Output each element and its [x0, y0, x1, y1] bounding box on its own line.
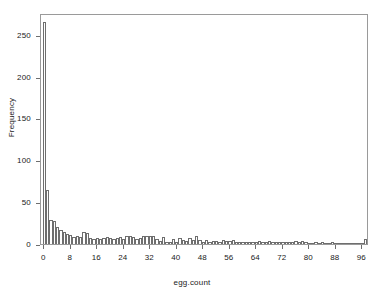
y-tick-label: 50	[5, 199, 31, 207]
histogram-bars	[41, 15, 367, 244]
x-tick-label: 32	[135, 253, 163, 262]
x-tick-label: 72	[268, 253, 296, 262]
x-tick-label: 80	[294, 253, 322, 262]
x-axis-title: egg.count	[0, 278, 384, 287]
x-tick-mark	[335, 245, 336, 249]
x-tick-mark	[123, 245, 124, 249]
y-tick-mark	[36, 78, 40, 79]
x-tick-mark	[149, 245, 150, 249]
histogram-figure: 050100150200250 081624324048566472808896…	[0, 0, 384, 301]
x-tick-label: 40	[162, 253, 190, 262]
x-tick-mark	[176, 245, 177, 249]
x-tick-mark	[255, 245, 256, 249]
x-tick-mark	[70, 245, 71, 249]
y-tick-label: 250	[5, 32, 31, 40]
x-tick-label: 24	[109, 253, 137, 262]
y-tick-mark	[36, 161, 40, 162]
x-tick-label: 48	[188, 253, 216, 262]
x-tick-mark	[282, 245, 283, 249]
y-tick-mark	[36, 36, 40, 37]
x-tick-label: 16	[82, 253, 110, 262]
x-tick-label: 88	[321, 253, 349, 262]
x-axis-ticks: 081624324048566472808896	[0, 245, 384, 275]
x-tick-mark	[43, 245, 44, 249]
histogram-bar	[364, 239, 367, 244]
x-tick-label: 56	[215, 253, 243, 262]
y-tick-mark	[36, 119, 40, 120]
x-tick-mark	[308, 245, 309, 249]
x-tick-label: 96	[347, 253, 375, 262]
x-tick-label: 8	[56, 253, 84, 262]
x-tick-mark	[202, 245, 203, 249]
x-tick-label: 0	[29, 253, 57, 262]
plot-frame	[40, 14, 368, 245]
y-axis-title: Frequency	[7, 68, 16, 168]
x-tick-mark	[96, 245, 97, 249]
x-tick-mark	[229, 245, 230, 249]
x-tick-label: 64	[241, 253, 269, 262]
y-tick-mark	[36, 203, 40, 204]
x-tick-mark	[361, 245, 362, 249]
y-axis-line	[40, 14, 41, 245]
